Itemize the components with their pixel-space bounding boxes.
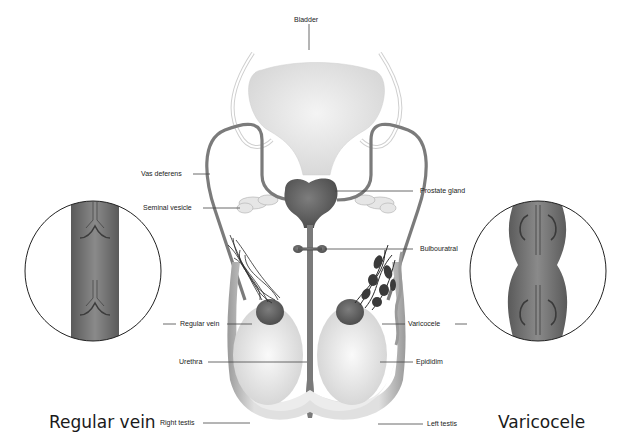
regular-vein-inset [25, 195, 161, 345]
label-varicocele: Varicocele [408, 320, 440, 327]
label-bulbouratral: Bulbouratral [420, 245, 458, 252]
left-epididymis [336, 299, 364, 325]
label-vas-deferens: Vas deferens [141, 170, 182, 177]
label-epididim: Epididim [416, 358, 443, 365]
caption-regular-vein: Regular vein [49, 414, 156, 431]
right-epididymis [256, 299, 284, 325]
label-prostate-gland: Prostate gland [420, 187, 465, 194]
prostate-gland [284, 178, 337, 228]
urethra [306, 225, 314, 418]
label-regular-vein: Regular vein [180, 320, 219, 327]
bladder [249, 63, 385, 176]
label-seminal-vesicle: Seminal vesicle [143, 204, 192, 211]
label-bladder: Bladder [294, 16, 318, 23]
label-urethra: Urethra [179, 358, 202, 365]
anatomy-diagram: Bladder Vas deferens Seminal vesicle Pro… [0, 0, 633, 436]
varicocele-inset [470, 200, 606, 345]
label-right-testis: Right testis [160, 419, 195, 426]
diagram-canvas [0, 0, 633, 436]
caption-varicocele: Varicocele [498, 414, 585, 431]
label-left-testis: Left testis [427, 420, 457, 427]
